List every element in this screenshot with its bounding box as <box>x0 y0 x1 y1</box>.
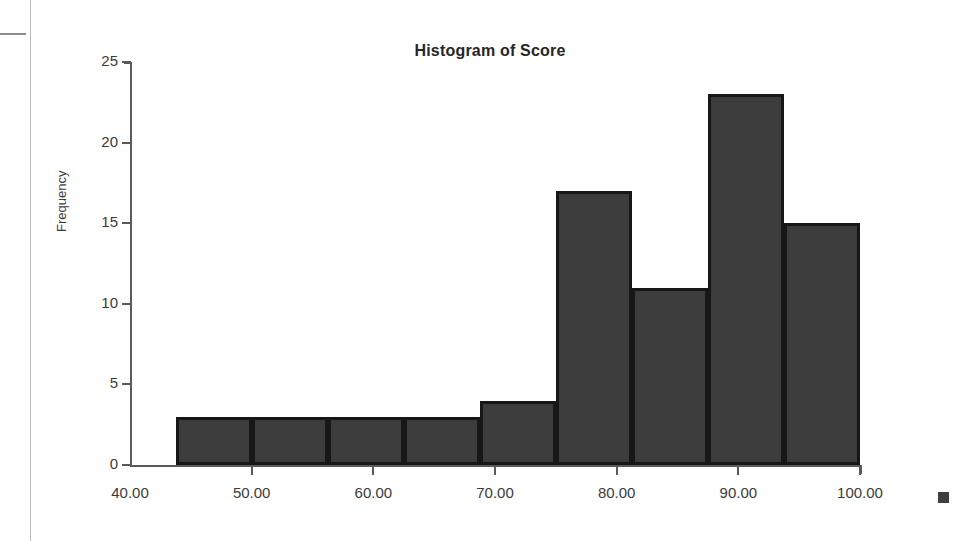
y-tick-label: 10 <box>78 294 118 311</box>
y-tick-mark <box>122 383 131 385</box>
histogram-bar[interactable] <box>784 223 860 465</box>
x-tick-label: 100.00 <box>815 484 905 501</box>
x-tick-label: 90.00 <box>693 484 783 501</box>
y-tick-label: 5 <box>78 374 118 391</box>
x-tick-mark <box>372 467 374 475</box>
histogram-bar[interactable] <box>328 417 404 465</box>
histogram-bar[interactable] <box>632 288 708 465</box>
x-tick-label: 50.00 <box>207 484 297 501</box>
y-tick-mark <box>122 61 131 63</box>
y-axis-title-holder: Frequency <box>56 0 76 541</box>
page-canvas: Histogram of Score Frequency 0510152025 … <box>0 0 979 541</box>
x-tick-label: 60.00 <box>328 484 418 501</box>
x-tick-mark <box>494 467 496 475</box>
histogram-bar[interactable] <box>252 417 328 465</box>
x-axis-line <box>130 465 862 467</box>
x-tick-label: 40.00 <box>85 484 175 501</box>
x-tick-label: 70.00 <box>450 484 540 501</box>
histogram-bar[interactable] <box>404 417 480 465</box>
legend-color-marker <box>938 492 949 503</box>
y-axis-line <box>130 62 132 466</box>
y-tick-label: 15 <box>78 213 118 230</box>
histogram-chart: Histogram of Score Frequency 0510152025 … <box>0 0 979 541</box>
y-tick-label: 25 <box>78 52 118 69</box>
histogram-bar[interactable] <box>556 191 632 465</box>
x-tick-mark <box>616 467 618 475</box>
y-tick-mark <box>122 142 131 144</box>
y-tick-label: 20 <box>78 133 118 150</box>
y-axis-title: Frequency <box>54 171 69 232</box>
y-tick-mark <box>122 222 131 224</box>
x-axis-right-cap <box>860 465 862 474</box>
histogram-bar[interactable] <box>176 417 252 465</box>
y-tick-label: 0 <box>78 455 118 472</box>
histogram-bar[interactable] <box>708 94 784 465</box>
x-tick-label: 80.00 <box>572 484 662 501</box>
x-tick-mark <box>737 467 739 475</box>
histogram-bar[interactable] <box>480 401 556 465</box>
chart-title: Histogram of Score <box>340 42 640 60</box>
x-tick-mark <box>251 467 253 475</box>
plot-area <box>162 62 860 465</box>
y-tick-mark <box>122 303 131 305</box>
